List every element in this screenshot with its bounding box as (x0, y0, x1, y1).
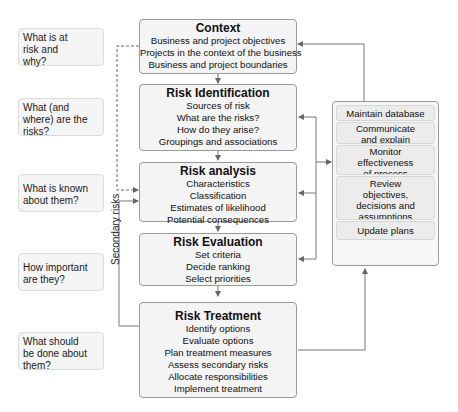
stage-item: Decide ranking (140, 261, 296, 273)
question-line: What should (23, 336, 99, 348)
stage-risk-identification: Risk Identification Sources of risk What… (139, 84, 297, 151)
stage-title: Risk Identification (140, 86, 296, 100)
panel-item-line: objectives, (337, 189, 434, 200)
stage-context: Context Business and project objectives … (139, 19, 297, 74)
panel-item-maintain-database: Maintain database (336, 105, 435, 121)
panel-item-line: decisions and (337, 200, 434, 211)
stage-item: Classification (140, 190, 296, 202)
question-line: be done about (23, 348, 99, 360)
stage-title: Context (140, 21, 296, 35)
panel-item-line: of process (337, 168, 434, 175)
question-line: What is known (23, 183, 99, 195)
panel-item-line: Communicate (337, 123, 434, 134)
question-box-identification: What (and where) are the risks? (18, 98, 104, 136)
panel-item-line: and explain (337, 134, 434, 144)
question-line: risks? (23, 126, 99, 138)
stage-item: Business and project boundaries (140, 59, 296, 71)
question-line: How important (23, 262, 99, 274)
stage-risk-analysis: Risk analysis Characteristics Classifica… (139, 162, 297, 222)
panel-item-line: Monitor (337, 146, 434, 157)
panel-item-communicate: Communicate and explain (336, 122, 435, 144)
panel-item-update-plans: Update plans (336, 221, 435, 240)
secondary-risks-label: Secondary risks (110, 194, 121, 265)
question-line: about them? (23, 195, 99, 207)
question-box-evaluation: How important are they? (18, 253, 104, 291)
stage-item: Set criteria (140, 249, 296, 261)
question-line: them? (23, 360, 99, 372)
panel-item-line: assumptions (337, 211, 434, 220)
panel-item-review: Review objectives, decisions and assumpt… (336, 176, 435, 220)
question-line: risk and (23, 44, 99, 56)
question-line: why? (23, 56, 99, 68)
question-line: What (and (23, 102, 99, 114)
stage-item: Assess secondary risks (140, 359, 296, 371)
panel-item-monitor: Monitor effectiveness of process (336, 145, 435, 175)
stage-item: Identify options (140, 323, 296, 335)
question-box-analysis: What is known about them? (18, 174, 104, 212)
stage-title: Risk analysis (140, 164, 296, 178)
stage-item: Allocate responsibilities (140, 371, 296, 383)
stage-item: Groupings and associations (140, 136, 296, 148)
stage-item: How do they arise? (140, 124, 296, 136)
panel-item-line: effectiveness (337, 157, 434, 168)
stage-item: Sources of risk (140, 100, 296, 112)
panel-item-line: Review (337, 178, 434, 189)
stage-item: Plan treatment measures (140, 347, 296, 359)
question-line: What is at (23, 32, 99, 44)
stage-item: Evaluate options (140, 335, 296, 347)
question-box-treatment: What should be done about them? (18, 332, 104, 370)
stage-title: Risk Treatment (140, 309, 296, 323)
stage-item: Estimates of likelihood (140, 202, 296, 214)
question-box-context: What is at risk and why? (18, 28, 104, 66)
stage-item: Select priorities (140, 273, 296, 285)
stage-item: Characteristics (140, 178, 296, 190)
stage-risk-evaluation: Risk Evaluation Set criteria Decide rank… (139, 233, 297, 286)
stage-risk-treatment: Risk Treatment Identify options Evaluate… (139, 302, 297, 398)
panel-item-line: Update plans (337, 225, 434, 236)
stage-item: Potential consequences (140, 214, 296, 226)
stage-item: Implement treatment (140, 383, 296, 395)
stage-item: Projects in the context of the business (140, 47, 296, 59)
stage-item: What are the risks? (140, 112, 296, 124)
question-line: where) are the (23, 114, 99, 126)
stage-item: Business and project objectives (140, 35, 296, 47)
monitoring-panel: Maintain database Communicate and explai… (332, 101, 439, 266)
panel-item-line: Maintain database (337, 108, 434, 119)
question-line: are they? (23, 274, 99, 286)
stage-title: Risk Evaluation (140, 235, 296, 249)
